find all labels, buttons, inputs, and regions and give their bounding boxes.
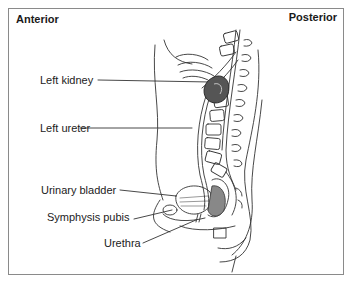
urethra — [196, 214, 198, 222]
urinary-bladder — [176, 186, 212, 214]
leader-left-kidney — [98, 80, 210, 82]
leader-urinary-bladder — [120, 190, 176, 196]
rectum — [208, 186, 225, 216]
abdominal-wall-outline — [154, 45, 163, 200]
anatomy-illustration — [0, 0, 349, 281]
symphysis-pubis — [163, 205, 177, 215]
vertebral-column — [205, 30, 240, 177]
